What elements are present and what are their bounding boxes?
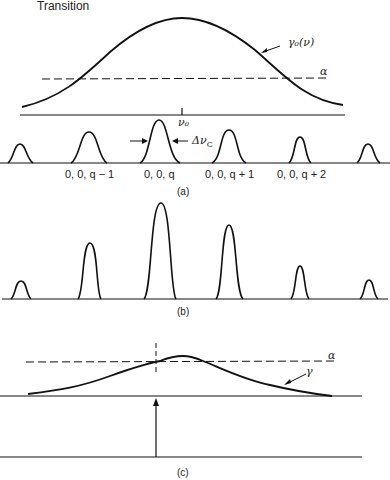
loss-line-c xyxy=(26,361,337,362)
mode-peak-a-2 xyxy=(71,132,107,163)
loss-label: α xyxy=(320,65,327,78)
caption-b: (b) xyxy=(177,306,189,317)
loss-label-c: α xyxy=(328,349,335,362)
linewidth-label: ΔνC xyxy=(192,134,213,149)
mode-peak-a-6 xyxy=(357,144,380,163)
figure-canvas xyxy=(0,0,390,480)
center-frequency-label: ν₀ xyxy=(178,116,189,129)
gain-label: γ₀(ν) xyxy=(288,36,314,49)
gain-curve-a xyxy=(22,18,343,107)
mode-peak-b-1 xyxy=(11,281,31,299)
linewidth-subscript: C xyxy=(207,140,213,149)
linewidth-symbol: Δν xyxy=(192,134,207,147)
mode-label-q: 0, 0, q xyxy=(144,168,175,180)
loss-line-a xyxy=(42,78,329,79)
mode-peak-a-5 xyxy=(289,137,311,163)
mode-label-q-plus-2: 0, 0, q + 2 xyxy=(277,168,326,180)
mode-peak-b-6 xyxy=(360,280,378,299)
gain-label-c: γ xyxy=(306,365,313,378)
gain-curve-c xyxy=(28,356,332,396)
caption-c: (c) xyxy=(177,467,189,478)
mode-peak-a-1 xyxy=(8,144,33,163)
mode-label-q-plus-1: 0, 0, q + 1 xyxy=(205,168,254,180)
mode-peak-b-5 xyxy=(291,266,309,299)
mode-peak-b-4 xyxy=(216,225,243,299)
mode-peak-b-3 xyxy=(144,203,176,299)
mode-peak-a-4 xyxy=(212,130,246,163)
mode-peak-b-2 xyxy=(78,243,101,299)
mode-label-q-minus-1: 0, 0, q − 1 xyxy=(65,168,114,180)
caption-a: (a) xyxy=(177,186,189,197)
